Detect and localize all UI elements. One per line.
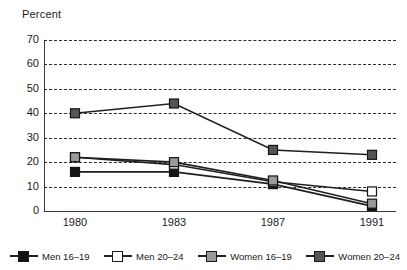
y-axis-tick-20: 20 bbox=[5, 155, 39, 167]
series-line bbox=[75, 157, 372, 191]
legend-swatch-icon bbox=[10, 250, 38, 262]
legend-swatch-icon bbox=[198, 250, 226, 262]
legend-swatch-icon bbox=[306, 250, 334, 262]
legend-item-label: Women 20–24 bbox=[338, 250, 400, 262]
y-axis-tick-50: 50 bbox=[5, 82, 39, 94]
legend-item-0[interactable]: Men 16–19 bbox=[10, 250, 90, 262]
legend-item-label: Men 16–19 bbox=[42, 250, 90, 262]
y-axis-tick-30: 30 bbox=[5, 131, 39, 143]
data-point bbox=[368, 199, 377, 208]
x-axis-tick-1991: 1991 bbox=[342, 216, 402, 228]
legend-item-1[interactable]: Men 20–24 bbox=[104, 250, 184, 262]
y-axis-tick-0: 0 bbox=[5, 204, 39, 216]
y-axis-tick-10: 10 bbox=[5, 180, 39, 192]
series-line bbox=[75, 172, 372, 206]
legend-item-3[interactable]: Women 20–24 bbox=[306, 250, 400, 262]
line-chart: Percent Men 16–19Men 20–24Women 16–19Wom… bbox=[0, 0, 407, 270]
series-layer bbox=[0, 0, 407, 270]
x-axis-tick-1980: 1980 bbox=[45, 216, 105, 228]
data-point bbox=[368, 187, 377, 196]
x-axis-tick-1983: 1983 bbox=[144, 216, 204, 228]
data-point bbox=[71, 109, 80, 118]
data-point bbox=[368, 150, 377, 159]
data-point bbox=[71, 167, 80, 176]
data-point bbox=[71, 153, 80, 162]
x-axis-tick-1987: 1987 bbox=[243, 216, 303, 228]
legend-item-label: Men 20–24 bbox=[136, 250, 184, 262]
data-point bbox=[170, 99, 179, 108]
legend-item-label: Women 16–19 bbox=[230, 250, 292, 262]
series-line bbox=[75, 104, 372, 155]
y-axis-tick-70: 70 bbox=[5, 33, 39, 45]
data-point bbox=[269, 145, 278, 154]
y-axis-tick-60: 60 bbox=[5, 57, 39, 69]
y-axis-tick-40: 40 bbox=[5, 106, 39, 118]
legend-swatch-icon bbox=[104, 250, 132, 262]
data-point bbox=[269, 176, 278, 185]
series-3 bbox=[71, 99, 377, 159]
legend-item-2[interactable]: Women 16–19 bbox=[198, 250, 292, 262]
chart-legend: Men 16–19Men 20–24Women 16–19Women 20–24 bbox=[10, 246, 400, 266]
data-point bbox=[170, 158, 179, 167]
